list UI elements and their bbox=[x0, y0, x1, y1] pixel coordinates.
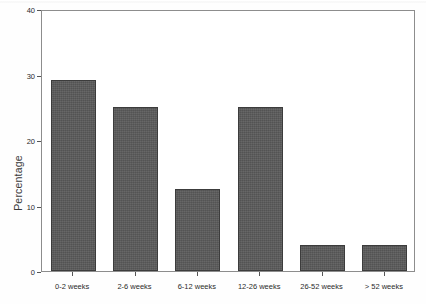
bar-chart-figure: Percentage 010203040 0-2 weeks2-6 weeks6… bbox=[0, 0, 426, 304]
y-tick-mark-10 bbox=[37, 207, 41, 208]
bar-series bbox=[42, 11, 414, 271]
bar bbox=[51, 80, 96, 271]
x-tick-label: 26-52 weeks bbox=[300, 282, 343, 291]
y-axis-tick-labels: 010203040 bbox=[0, 0, 40, 304]
x-tick-label: 6-12 weeks bbox=[178, 282, 216, 291]
y-tick-mark-0 bbox=[37, 272, 41, 273]
x-tick-mark bbox=[259, 272, 260, 276]
x-tick-mark bbox=[72, 272, 73, 276]
bar bbox=[362, 245, 407, 271]
x-tick-label: 12-26 weeks bbox=[238, 282, 281, 291]
y-tick-label-20: 20 bbox=[27, 137, 35, 146]
x-tick-label: > 52 weeks bbox=[365, 282, 403, 291]
x-tick-mark bbox=[322, 272, 323, 276]
x-axis-tick-labels: 0-2 weeks2-6 weeks6-12 weeks12-26 weeks2… bbox=[41, 282, 415, 296]
x-axis-tick-marks bbox=[41, 272, 415, 278]
x-tick-mark bbox=[135, 272, 136, 276]
y-tick-mark-40 bbox=[37, 10, 41, 11]
plot-area bbox=[41, 10, 415, 272]
bar bbox=[113, 107, 158, 271]
cropped-title-edge bbox=[0, 0, 426, 3]
y-tick-label-10: 10 bbox=[27, 202, 35, 211]
bar bbox=[175, 189, 220, 271]
x-tick-label: 2-6 weeks bbox=[117, 282, 151, 291]
bar bbox=[300, 245, 345, 271]
bar bbox=[238, 107, 283, 271]
y-tick-label-0: 0 bbox=[31, 268, 35, 277]
x-tick-mark bbox=[197, 272, 198, 276]
y-tick-label-40: 40 bbox=[27, 6, 35, 15]
y-tick-mark-30 bbox=[37, 76, 41, 77]
y-tick-mark-20 bbox=[37, 141, 41, 142]
x-tick-label: 0-2 weeks bbox=[55, 282, 89, 291]
x-tick-mark bbox=[384, 272, 385, 276]
y-tick-label-30: 30 bbox=[27, 71, 35, 80]
